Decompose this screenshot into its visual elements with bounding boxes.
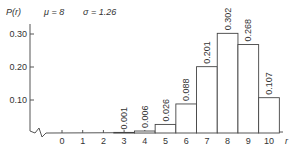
histogram-bar [134,131,155,133]
y-tick-label: 0.20 [9,62,27,72]
bars: 0.0010.0060.0260.0880.2010.3020.2680.107 [114,8,280,133]
y-tick-label: 0.10 [9,95,27,105]
x-tick-label: 0 [59,136,64,146]
y-tick-label: 0.30 [9,29,27,39]
bar-value-label: 0.107 [264,72,274,95]
x-tick-label: 4 [142,136,147,146]
bar-value-label: 0.006 [140,105,150,128]
bar-value-label: 0.026 [161,99,171,122]
bar-value-label: 0.302 [223,8,233,31]
x-tick-label: 7 [204,136,209,146]
histogram-bar [217,33,238,133]
sigma-annotation: σ = 1.26 [83,7,116,17]
bar-value-label: 0.268 [243,19,253,42]
histogram-bar [259,98,280,133]
histogram-bar [197,67,218,133]
histogram-bar [176,104,197,133]
x-tick-label: 8 [225,136,230,146]
x-tick-label: 1 [80,136,85,146]
bar-value-label: 0.201 [202,41,212,64]
x-tick-label: 10 [264,136,274,146]
x-tick-label: 5 [163,136,168,146]
x-tick-label: 9 [246,136,251,146]
bar-value-label: 0.088 [181,78,191,101]
histogram-bar [114,132,135,133]
y-axis-label: P(r) [6,7,21,17]
x-tick-label: 2 [101,136,106,146]
probability-histogram: 0.100.200.30012345678910 0.0010.0060.026… [0,0,298,147]
bar-value-label: 0.001 [119,107,129,130]
mu-annotation: μ = 8 [43,7,64,17]
x-axis-label: r [285,136,289,146]
x-tick-label: 6 [184,136,189,146]
histogram-bar [238,45,259,133]
histogram-bar [155,124,176,133]
x-tick-label: 3 [122,136,127,146]
